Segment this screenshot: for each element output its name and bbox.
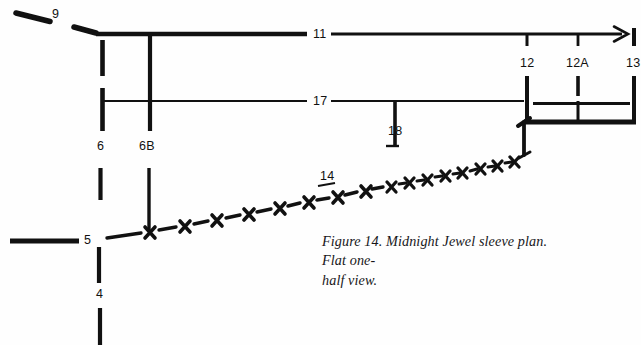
line-14-x-chain — [107, 122, 530, 238]
label-5: 5 — [84, 234, 91, 247]
label-11: 11 — [313, 28, 326, 41]
label-12a: 12A — [566, 57, 589, 70]
label-4: 4 — [96, 288, 103, 301]
label-14: 14 — [320, 170, 334, 183]
caption-line-2: half view. — [322, 272, 377, 288]
figure-container: 9 11 12 12A 13 17 18 14 6 6B 5 4 Figure … — [0, 0, 641, 345]
label-18: 18 — [388, 125, 402, 138]
line-6b-vertical — [149, 34, 150, 230]
label-17: 17 — [313, 95, 327, 108]
figure-caption: Figure 14. Midnight Jewel sleeve plan. F… — [322, 232, 572, 290]
line-6-dashed-vertical — [101, 40, 103, 200]
caption-line-1: Figure 14. Midnight Jewel sleeve plan. F… — [322, 233, 547, 268]
label-9: 9 — [52, 8, 59, 21]
line-17-horizontal — [104, 101, 630, 104]
line-11-horizontal — [96, 27, 628, 42]
label-6b: 6B — [139, 140, 155, 153]
label-13: 13 — [626, 57, 640, 70]
label-14-underline — [318, 183, 335, 186]
label-6: 6 — [97, 140, 104, 153]
label-12: 12 — [520, 57, 534, 70]
